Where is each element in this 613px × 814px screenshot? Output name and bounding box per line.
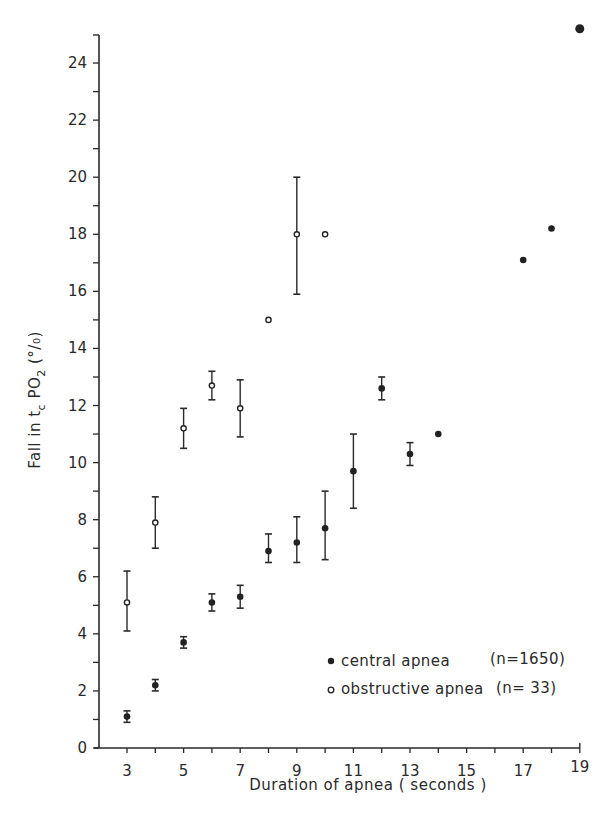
y-tick-label: 18 xyxy=(68,225,87,243)
x-tick-label: 7 xyxy=(235,762,245,780)
data-point-filled-circle-icon xyxy=(294,539,301,546)
data-point-filled-circle-icon xyxy=(209,599,216,606)
data-point-open-circle-icon xyxy=(124,600,129,605)
data-point-filled-circle-icon xyxy=(322,525,329,532)
legend: central apnea (n=1650) obstructive apnea… xyxy=(328,650,565,698)
legend-obstructive-label: obstructive apnea xyxy=(341,680,484,698)
series-central-apnea xyxy=(124,24,585,722)
y-tick-label: 0 xyxy=(77,739,87,757)
data-point-filled-circle-icon xyxy=(548,225,555,232)
y-axis-title-sub2: 2 xyxy=(35,369,48,377)
y-axis-title: Fall in tc PO2 (°/₀) xyxy=(26,331,48,469)
legend-open-circle-icon xyxy=(328,687,334,693)
data-point-filled-circle-icon xyxy=(237,593,244,600)
data-point-open-circle-icon xyxy=(323,232,328,237)
y-tick-label: 22 xyxy=(68,111,87,129)
data-point-filled-circle-icon xyxy=(520,257,527,264)
y-axis-tick-labels: 024681012141618202224 xyxy=(68,54,87,757)
legend-central-n: (n=1650) xyxy=(490,650,565,668)
data-point-open-circle-icon xyxy=(209,383,214,388)
data-point-open-circle-icon xyxy=(266,317,271,322)
svg-text:Fall in tc PO2 (°/₀): Fall in tc PO2 (°/₀) xyxy=(26,331,48,469)
y-tick-label: 4 xyxy=(77,625,87,643)
y-tick-label: 2 xyxy=(77,682,87,700)
scatter-chart: 024681012141618202224 35791113151719 Dur… xyxy=(0,0,613,814)
data-point-filled-circle-icon xyxy=(350,468,357,475)
data-point-open-circle-icon xyxy=(153,520,158,525)
y-axis-title-mid: PO xyxy=(26,377,44,404)
data-point-filled-circle-icon xyxy=(180,639,187,646)
legend-filled-circle-icon xyxy=(328,658,334,664)
x-tick-label: 3 xyxy=(122,762,132,780)
data-point-filled-circle-icon xyxy=(435,431,442,438)
y-tick-label: 24 xyxy=(68,54,87,72)
y-axis-title-tail: (°/₀) xyxy=(26,331,44,369)
data-point-open-circle-icon xyxy=(181,426,186,431)
data-point-filled-circle-icon xyxy=(378,385,385,392)
data-point-filled-circle-icon xyxy=(575,24,584,33)
data-point-open-circle-icon xyxy=(238,406,243,411)
data-point-filled-circle-icon xyxy=(265,548,272,555)
y-tick-label: 8 xyxy=(77,511,87,529)
data-point-open-circle-icon xyxy=(294,232,299,237)
legend-obstructive-n: (n= 33) xyxy=(496,679,556,697)
x-tick-label: 17 xyxy=(514,762,533,780)
y-tick-label: 14 xyxy=(68,339,87,357)
y-tick-label: 16 xyxy=(68,282,87,300)
data-point-filled-circle-icon xyxy=(407,451,414,458)
axes xyxy=(93,35,580,753)
x-tick-label: 5 xyxy=(179,762,189,780)
legend-central-label: central apnea xyxy=(341,652,450,670)
y-axis-title-main: Fall in t xyxy=(26,410,44,468)
data-point-filled-circle-icon xyxy=(124,713,131,720)
y-tick-label: 6 xyxy=(77,568,87,586)
x-axis-title: Duration of apnea ( seconds ) xyxy=(249,776,487,794)
data-point-filled-circle-icon xyxy=(152,682,159,689)
y-tick-label: 12 xyxy=(68,397,87,415)
y-tick-label: 20 xyxy=(68,168,87,186)
y-tick-label: 10 xyxy=(68,454,87,472)
x-tick-label: 19 xyxy=(570,758,589,776)
